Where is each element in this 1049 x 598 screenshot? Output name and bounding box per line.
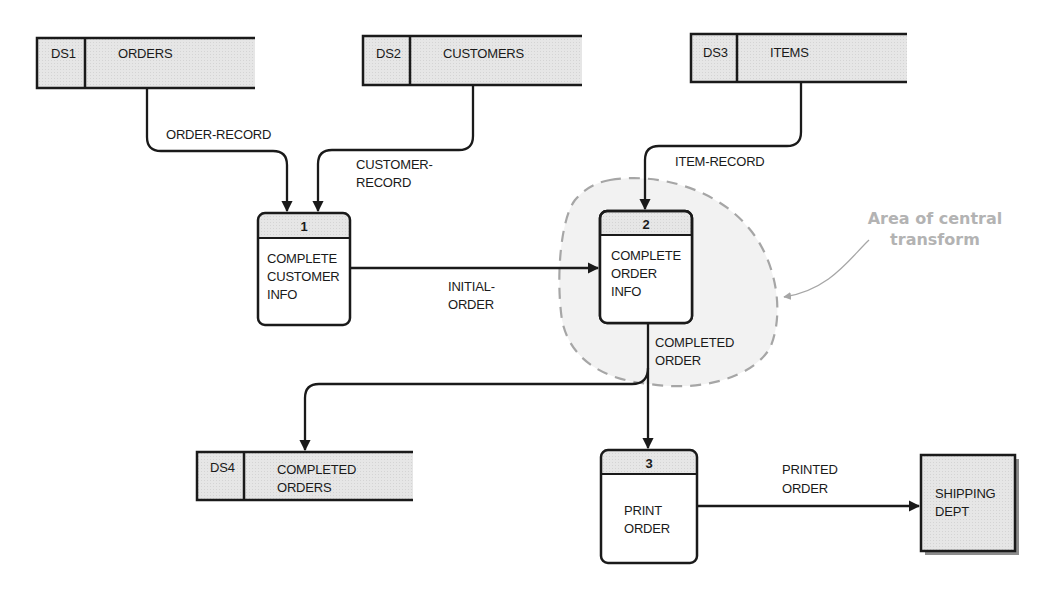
flow-label-line1: COMPLETED	[655, 335, 734, 350]
central-transform-annotation: Area of central transform	[784, 209, 1002, 297]
data-store-id: DS4	[210, 460, 235, 475]
annotation-arrow-icon	[784, 240, 869, 297]
process-label-line2: ORDER	[624, 521, 670, 536]
process-2[interactable]: 2 COMPLETE ORDER INFO	[600, 211, 692, 323]
data-store-ds1[interactable]: DS1 ORDERS	[37, 38, 255, 88]
data-store-id: DS3	[703, 45, 728, 60]
flow-label-line1: PRINTED	[782, 462, 838, 477]
flow-label-line2: ORDER	[782, 481, 828, 496]
entity-label-line1: SHIPPING	[935, 486, 996, 501]
data-store-id: DS1	[51, 46, 76, 61]
data-store-name: ORDERS	[118, 46, 173, 61]
process-number: 1	[300, 219, 307, 234]
data-store-name-line1: COMPLETED	[277, 462, 356, 477]
process-number: 2	[642, 217, 649, 232]
process-number: 3	[645, 456, 652, 471]
process-3[interactable]: 3 PRINT ORDER	[601, 450, 697, 563]
data-store-name: ITEMS	[770, 45, 809, 60]
process-label-line2: CUSTOMER	[267, 269, 340, 284]
external-entity-shipping-dept[interactable]: SHIPPING DEPT	[921, 455, 1019, 555]
flow-label: ORDER-RECORD	[166, 127, 271, 142]
annotation-line2: transform	[890, 230, 980, 249]
flow-label-line1: CUSTOMER-	[356, 157, 433, 172]
data-store-id: DS2	[376, 46, 401, 61]
flow-label-line2: ORDER	[448, 297, 494, 312]
process-label-line3: INFO	[267, 287, 297, 302]
flow-printed-order: PRINTED ORDER	[698, 462, 919, 506]
flow-order-record: ORDER-RECORD	[147, 88, 287, 211]
annotation-line1: Area of central	[868, 209, 1003, 228]
flow-label: ITEM-RECORD	[675, 154, 765, 169]
process-label-line1: COMPLETE	[267, 251, 337, 266]
entity-label-line2: DEPT	[935, 504, 969, 519]
data-store-ds4[interactable]: DS4 COMPLETED ORDERS	[197, 452, 413, 500]
process-label-line3: INFO	[611, 284, 641, 299]
data-store-ds2[interactable]: DS2 CUSTOMERS	[363, 36, 582, 85]
data-store-name: CUSTOMERS	[443, 46, 525, 61]
process-label-line2: ORDER	[611, 266, 657, 281]
flow-label-line2: RECORD	[356, 175, 411, 190]
data-store-name-line2: ORDERS	[277, 480, 332, 495]
data-store-ds3[interactable]: DS3 ITEMS	[691, 34, 907, 82]
flow-label-line2: ORDER	[655, 353, 701, 368]
process-1[interactable]: 1 COMPLETE CUSTOMER INFO	[258, 213, 350, 325]
data-flow-diagram: Area of central transform DS1 ORDERS DS2…	[0, 0, 1049, 598]
flow-label-line1: INITIAL-	[448, 279, 495, 294]
flow-customer-record: CUSTOMER- RECORD	[318, 85, 473, 211]
process-label-line1: COMPLETE	[611, 248, 681, 263]
flow-completed-order: COMPLETED ORDER	[305, 324, 734, 450]
process-label-line1: PRINT	[624, 503, 662, 518]
